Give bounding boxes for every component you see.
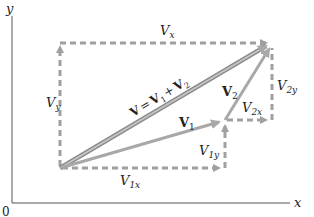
x-axis-label: x	[294, 195, 302, 210]
origin-label: 0	[2, 205, 10, 217]
v1-label: V1	[178, 115, 195, 132]
vector-addition-diagram: y x 0 Vx Vy V1x V1y V2x V2y V1 V2 V=V1+V…	[0, 0, 314, 217]
v2x-label: V2x	[242, 100, 262, 117]
v1-vector	[60, 122, 219, 168]
vx-label: Vx	[160, 23, 174, 40]
y-axis-label: y	[5, 1, 14, 16]
v1y-label: V1y	[199, 143, 220, 160]
vectors	[60, 46, 269, 168]
v2y-label: V2y	[277, 78, 298, 95]
resultant-vector	[60, 46, 266, 168]
vy-label: Vy	[46, 95, 61, 112]
v1x-label: V1x	[120, 173, 140, 190]
v2-label: V2	[221, 84, 238, 101]
